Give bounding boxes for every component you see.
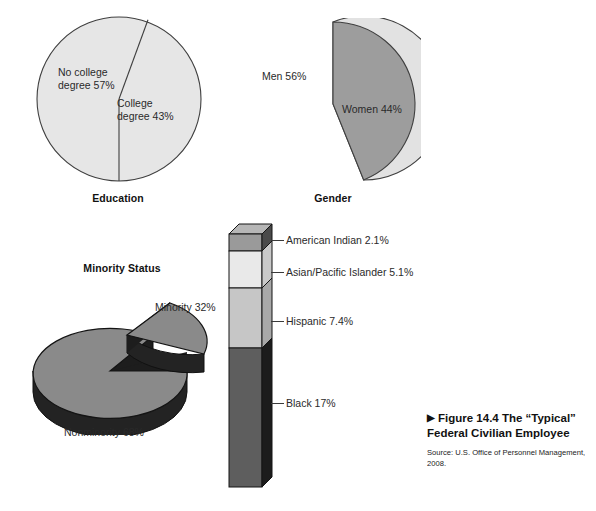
minority-pie-chart bbox=[20, 300, 230, 435]
minority-slice-label: Minority 32% bbox=[155, 301, 216, 314]
minority-pie-svg bbox=[20, 300, 230, 435]
gender-chart-title: Gender bbox=[273, 192, 393, 204]
nonminority-slice-label: Nonminority 68% bbox=[64, 426, 144, 439]
education-no-college-label: No college degree 57% bbox=[58, 66, 115, 92]
leader-line-black bbox=[271, 403, 284, 404]
bar-segment-black bbox=[229, 348, 262, 487]
race-stacked-bar-svg bbox=[225, 220, 285, 495]
leader-line-asian-pacific bbox=[271, 272, 284, 273]
bar-label-black: Black 17% bbox=[286, 397, 336, 409]
bar-segment-asian-pacific bbox=[229, 251, 262, 288]
minority-chart-title: Minority Status bbox=[62, 262, 182, 274]
education-no-college-line2: degree 57% bbox=[58, 79, 115, 92]
figure-source-line1: Source: U.S. Office of Personnel Managem… bbox=[427, 448, 592, 459]
figure-source-line2: 2008. bbox=[427, 459, 592, 470]
bar-segment-black-side bbox=[262, 338, 272, 487]
figure-caption-title: ▶Figure 14.4 The “Typical” bbox=[427, 410, 592, 426]
figure-caption-title-line1: Figure 14.4 The “Typical” bbox=[438, 412, 576, 424]
figure-page: No college degree 57% College degree 43%… bbox=[0, 0, 596, 511]
bar-segment-hispanic-side bbox=[262, 278, 272, 348]
education-college-line1: College bbox=[117, 97, 174, 110]
education-college-line2: degree 43% bbox=[117, 110, 174, 123]
figure-source: Source: U.S. Office of Personnel Managem… bbox=[427, 448, 592, 469]
figure-caption-title-line2: Federal Civilian Employee bbox=[427, 426, 592, 441]
bar-label-american-indian: American Indian 2.1% bbox=[286, 234, 389, 246]
education-chart-title: Education bbox=[58, 192, 178, 204]
leader-line-american-indian bbox=[271, 240, 284, 241]
bar-label-asian-pacific: Asian/Pacific Islander 5.1% bbox=[286, 266, 413, 278]
bar-segment-american-indian bbox=[229, 234, 262, 251]
race-stacked-bar-chart bbox=[225, 220, 285, 495]
bar-segment-hispanic bbox=[229, 288, 262, 348]
gender-men-label: Men 56% bbox=[262, 70, 306, 83]
triangle-right-icon: ▶ bbox=[427, 410, 435, 425]
gender-women-label: Women 44% bbox=[342, 103, 402, 116]
leader-line-hispanic bbox=[271, 321, 284, 322]
education-no-college-line1: No college bbox=[58, 66, 115, 79]
education-college-label: College degree 43% bbox=[117, 97, 174, 123]
bar-label-hispanic: Hispanic 7.4% bbox=[286, 315, 353, 327]
figure-caption: ▶Figure 14.4 The “Typical” Federal Civil… bbox=[427, 410, 592, 469]
